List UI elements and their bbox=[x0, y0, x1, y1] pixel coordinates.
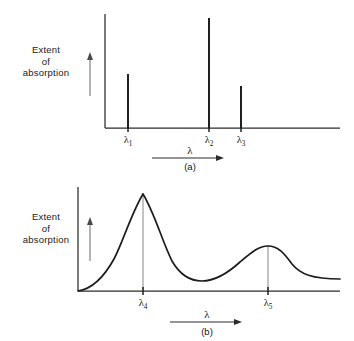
panel-a-y-label-line-3: absorption bbox=[8, 67, 84, 79]
panel-a-y-axis-label: Extent of absorption bbox=[8, 44, 84, 79]
panel-a-label-lambda2: λ2 bbox=[205, 134, 214, 148]
panel-b-absorption-curve bbox=[78, 194, 340, 291]
panel-a-label-lambda3: λ3 bbox=[237, 134, 246, 148]
panel-b-label-lambda4: λ4 bbox=[139, 297, 148, 311]
panel-a-x-axis-symbol: λ bbox=[187, 144, 193, 156]
panel-b-y-axis-label: Extent of absorption bbox=[8, 211, 84, 246]
panel-b-y-label-line-2: of bbox=[8, 223, 84, 235]
panel-b-label-lambda5: λ5 bbox=[264, 297, 273, 311]
panel-a-y-label-line-1: Extent bbox=[8, 44, 84, 56]
panel-b-x-axis-symbol: λ bbox=[204, 308, 210, 320]
panel-a-y-label-line-2: of bbox=[8, 56, 84, 68]
panel-b-y-label-line-1: Extent bbox=[8, 211, 84, 223]
panel-b-band-spectrum: Extent of absorption λ4 bbox=[0, 169, 354, 341]
panel-a-label-lambda1: λ1 bbox=[124, 134, 133, 148]
panel-b-caption: (b) bbox=[201, 326, 213, 337]
absorption-spectra-figure: Extent of absorption λ1 bbox=[0, 0, 354, 341]
panel-a-plot: λ1 λ2 λ3 λ (a) bbox=[0, 0, 354, 172]
panel-a-extent-indicator-arrow bbox=[87, 52, 93, 96]
panel-a-line-spectrum: Extent of absorption λ1 bbox=[0, 0, 354, 172]
panel-b-extent-indicator-arrow bbox=[87, 217, 93, 261]
panel-b-plot: λ4 λ5 λ (b) bbox=[0, 169, 354, 341]
panel-b-y-label-line-3: absorption bbox=[8, 234, 84, 246]
